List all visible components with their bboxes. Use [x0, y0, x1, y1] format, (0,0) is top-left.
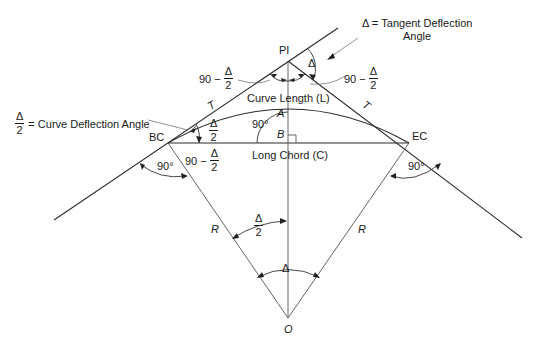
label-center-o: O: [284, 324, 293, 335]
leader-pi-left: [238, 80, 270, 83]
label-long-chord: Long Chord (C): [252, 150, 328, 161]
annotation-tangent-deflection-line1: Δ = Tangent Deflection: [362, 18, 472, 29]
label-pi: PI: [279, 45, 289, 56]
label-half-delta-bc: Δ2: [209, 118, 218, 143]
label-ec: EC: [412, 131, 427, 142]
fraction-den: 2: [370, 79, 376, 91]
fraction-half-delta: Δ2: [15, 111, 24, 136]
arrowhead: [232, 233, 239, 239]
fraction-half-delta: Δ2: [369, 66, 378, 91]
label-a: A: [277, 108, 284, 119]
label-bc: BC: [149, 132, 164, 143]
diagram-lines: [0, 0, 535, 346]
fraction-num: Δ: [224, 66, 233, 79]
fraction-half-delta: Δ2: [210, 148, 219, 173]
arrowhead: [280, 218, 287, 224]
leader-curve-deflection: [148, 120, 188, 130]
label-curve-length: Curve Length (L): [247, 93, 330, 104]
text-90-minus: 90 −: [344, 73, 366, 85]
curve-arc: [168, 109, 409, 143]
arrowhead: [196, 136, 202, 143]
text-90-minus: 90 −: [185, 155, 207, 167]
annotation-tangent-deflection-line2: Angle: [403, 31, 431, 42]
annotation-curve-deflection: Δ2 = Curve Deflection Angle: [15, 111, 150, 136]
fraction-half-delta: Δ2: [224, 66, 233, 91]
label-90-ec: 90°: [408, 161, 425, 172]
curve-diagram: PI BC EC O A B T T R R Curve Length (L) …: [0, 0, 535, 346]
label-90-minus-half-delta-pi-left: 90 − Δ2: [199, 66, 233, 91]
fraction-num: Δ: [15, 111, 24, 124]
right-angle-marker: [288, 135, 296, 143]
fraction-num: Δ: [369, 66, 378, 79]
fraction-den: 2: [211, 131, 217, 143]
label-radius-right: R: [358, 224, 366, 235]
label-half-delta-center: Δ2: [254, 213, 263, 238]
arrowhead: [181, 173, 188, 179]
label-b: B: [277, 129, 284, 140]
arrowhead: [140, 163, 145, 170]
label-delta-pi: Δ: [308, 58, 315, 69]
text-90-minus: 90 −: [199, 73, 221, 85]
label-90-center: 90°: [252, 119, 269, 130]
label-90-minus-half-delta-bc: 90 − Δ2: [185, 148, 219, 173]
fraction-num: Δ: [210, 148, 219, 161]
fraction-num: Δ: [254, 213, 263, 226]
fraction-den: 2: [256, 226, 262, 238]
fraction-den: 2: [211, 161, 217, 173]
arrowhead: [390, 173, 396, 179]
fraction-den: 2: [225, 79, 231, 91]
fraction-num: Δ: [209, 118, 218, 131]
arrowhead: [327, 53, 335, 60]
annotation-curve-deflection-text: = Curve Deflection Angle: [28, 118, 149, 130]
leader-pi-right: [310, 76, 345, 84]
fraction-den: 2: [17, 124, 23, 136]
label-90-minus-half-delta-pi-right: 90 − Δ2: [344, 66, 378, 91]
radius-right-line: [288, 143, 409, 318]
label-delta-o: Δ: [282, 263, 289, 274]
label-90-bc: 90°: [157, 161, 174, 172]
label-radius-left: R: [211, 224, 219, 235]
